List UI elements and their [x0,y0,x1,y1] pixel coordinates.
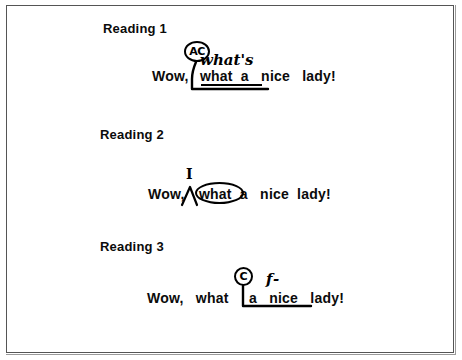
reading-3-sentence-prefix: Wow, what [147,290,229,306]
reading-3-handwritten-correction: f- [266,270,280,288]
reading-3-sentence-body: a nice lady! [249,290,344,306]
reading-3-bracket-ink [0,0,462,360]
figure-canvas: Reading 1 AC what's Wow, what a nice lad… [0,0,462,360]
